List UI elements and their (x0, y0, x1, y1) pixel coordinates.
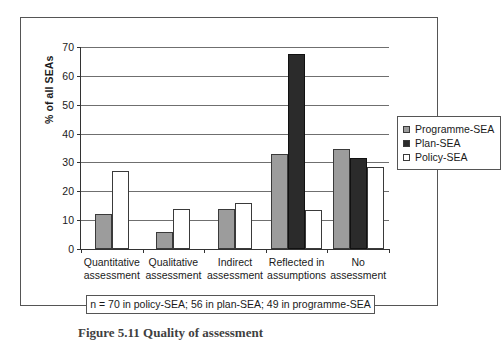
x-tick-mark-origin (81, 249, 82, 253)
x-label-line: assessment (145, 269, 201, 282)
legend-label-programme: Programme-SEA (415, 124, 494, 135)
x-label-line: No (330, 256, 386, 269)
bar-plan-sea-4[interactable] (350, 158, 367, 249)
y-tick-label-50: 50 (62, 99, 74, 110)
x-tick-mark-0 (143, 249, 144, 253)
y-tick-label-70: 70 (62, 42, 74, 53)
x-label-line: Qualitative (145, 256, 201, 269)
y-tick-label-60: 60 (62, 71, 74, 82)
x-label-line: assumptions (267, 269, 326, 282)
bar-group (327, 47, 389, 249)
bar-programme-sea-3[interactable] (271, 154, 288, 249)
x-label-line: Reflected in (267, 256, 326, 269)
bar-policy-sea-2[interactable] (235, 203, 252, 249)
x-axis-label-0: Quantitativeassessment (84, 256, 140, 281)
legend-item-plan[interactable]: Plan-SEA (403, 136, 494, 150)
bar-group (143, 47, 205, 249)
x-label-line: assessment (330, 269, 386, 282)
bar-policy-sea-0[interactable] (112, 171, 129, 249)
x-axis-label-2: Indirectassessment (207, 256, 263, 281)
x-tick-mark-1 (204, 249, 205, 253)
x-axis-label-4: Noassessment (330, 256, 386, 281)
legend-swatch-policy-icon (403, 154, 410, 161)
figure-caption: Figure 5.11 Quality of assessment (78, 325, 263, 341)
legend-swatch-plan-icon (403, 140, 410, 147)
legend-item-policy[interactable]: Policy-SEA (403, 150, 494, 164)
legend-label-plan: Plan-SEA (415, 138, 461, 149)
bar-group (266, 47, 328, 249)
legend-label-policy: Policy-SEA (415, 152, 468, 163)
y-tick-label-40: 40 (62, 128, 74, 139)
x-tick-mark-3 (327, 249, 328, 253)
legend-swatch-programme-icon (403, 126, 410, 133)
bar-programme-sea-4[interactable] (333, 149, 350, 249)
bar-group (81, 47, 143, 249)
x-axis-label-1: Qualitativeassessment (145, 256, 201, 281)
bar-programme-sea-0[interactable] (95, 214, 112, 249)
legend-item-programme[interactable]: Programme-SEA (403, 122, 494, 136)
x-tick-mark-2 (266, 249, 267, 253)
plot-area: 010203040506070QuantitativeassessmentQua… (80, 47, 389, 250)
y-tick-label-10: 10 (62, 215, 74, 226)
y-axis-title: % of all SEAs (43, 56, 55, 124)
footnote-text: n = 70 in policy-SEA; 56 in plan-SEA; 49… (90, 299, 370, 310)
bar-policy-sea-3[interactable] (305, 210, 322, 249)
bar-plan-sea-3[interactable] (288, 54, 305, 249)
bar-programme-sea-2[interactable] (218, 209, 235, 249)
chart-legend: Programme-SEAPlan-SEAPolicy-SEA (397, 116, 501, 170)
figure-frame: % of all SEAs 010203040506070Quantitativ… (20, 17, 438, 306)
y-tick-label-20: 20 (62, 186, 74, 197)
x-tick-mark-4 (389, 249, 390, 253)
bar-policy-sea-4[interactable] (367, 167, 384, 249)
x-label-line: assessment (84, 269, 140, 282)
y-tick-label-30: 30 (62, 157, 74, 168)
bar-programme-sea-1[interactable] (156, 232, 173, 249)
footnote-box: n = 70 in policy-SEA; 56 in plan-SEA; 49… (86, 295, 375, 314)
y-tick-label-0: 0 (68, 244, 74, 255)
bar-policy-sea-1[interactable] (173, 209, 190, 249)
x-label-line: Quantitative (84, 256, 140, 269)
x-axis-label-3: Reflected inassumptions (267, 256, 326, 281)
x-label-line: assessment (207, 269, 263, 282)
x-label-line: Indirect (207, 256, 263, 269)
bar-group (204, 47, 266, 249)
